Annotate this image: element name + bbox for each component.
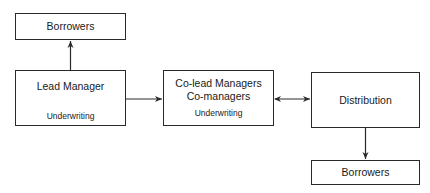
node-lead-manager: Lead Manager Underwriting (15, 70, 126, 126)
node-label: Distribution (339, 94, 392, 107)
node-borrowers-top: Borrowers (15, 13, 126, 40)
node-label-line2: Co-managers (187, 90, 251, 103)
node-label-line1: Co-lead Managers (175, 77, 261, 90)
node-sublabel: Underwriting (195, 108, 243, 119)
node-sublabel: Underwriting (47, 111, 95, 122)
node-label: Lead Manager (37, 80, 105, 93)
node-colead-managers: Co-lead Managers Co-managers Underwritin… (163, 70, 274, 126)
node-label: Borrowers (342, 166, 390, 179)
node-distribution: Distribution (311, 72, 420, 128)
node-label: Borrowers (47, 20, 95, 33)
node-borrowers-bottom: Borrowers (311, 160, 420, 185)
